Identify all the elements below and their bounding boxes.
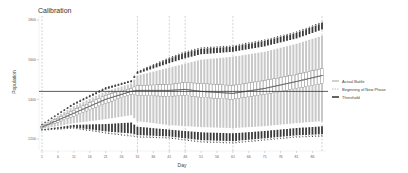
day-boxplot (177, 54, 180, 140)
x-tick-label: 81 (295, 155, 299, 159)
x-tick-label: 26 (120, 155, 124, 159)
day-boxplot (276, 36, 279, 139)
x-tick-label: 31 (135, 155, 139, 159)
day-boxplot (165, 59, 168, 139)
day-boxplot (85, 96, 88, 130)
day-boxplot (206, 47, 209, 143)
x-axis: 1611162126313641465156616671768186 (40, 151, 326, 159)
day-boxplot (225, 46, 228, 144)
day-boxplot (193, 49, 196, 142)
day-boxplot (241, 43, 244, 142)
day-boxplot (238, 44, 241, 143)
x-tick-label: 66 (247, 155, 251, 159)
y-axis-label: Population (11, 70, 17, 94)
x-tick-label: 1 (41, 155, 43, 159)
day-boxplot (95, 92, 98, 132)
y-axis: 1200140016001800 (28, 16, 39, 150)
day-boxplot (187, 50, 190, 141)
day-boxplot (302, 29, 305, 137)
x-axis-label: Day (178, 162, 187, 168)
y-tick-label: 1400 (28, 98, 36, 102)
x-tick-label: 41 (167, 155, 171, 159)
day-boxplot (98, 90, 101, 133)
day-boxplot (267, 38, 270, 140)
day-boxplot (244, 43, 247, 142)
day-boxplot (63, 109, 66, 129)
x-tick-label: 51 (199, 155, 203, 159)
day-boxplot (111, 85, 114, 134)
day-boxplot (139, 70, 142, 138)
x-tick-label: 61 (231, 155, 235, 159)
day-boxplot (219, 46, 222, 143)
legend-actual-battle-label: Actual Battle (342, 79, 365, 84)
day-boxplot (60, 111, 63, 129)
x-tick-label: 21 (104, 155, 108, 159)
x-tick-label: 86 (310, 155, 314, 159)
day-boxplot (321, 21, 324, 136)
day-boxplot (247, 42, 250, 142)
day-boxplot (101, 88, 104, 133)
day-boxplot (308, 26, 311, 137)
day-boxplot (216, 46, 219, 143)
day-boxplot (88, 95, 91, 131)
y-tick-label: 1600 (28, 58, 36, 62)
boxplot-chart: Calibration 1200140016001800 16111621263… (0, 0, 408, 173)
day-boxplot (72, 103, 75, 129)
day-boxplot (209, 47, 212, 143)
day-boxplot (57, 113, 60, 129)
day-boxplot (171, 56, 174, 139)
y-tick-label: 1800 (28, 18, 36, 22)
day-boxplot (53, 115, 56, 130)
day-boxplot (136, 71, 139, 138)
day-boxplot (130, 80, 133, 137)
day-boxplot (212, 46, 215, 142)
day-boxplot (257, 40, 260, 141)
day-boxplot (200, 47, 203, 142)
day-boxplot (317, 23, 320, 137)
day-boxplot (152, 64, 155, 138)
day-boxplot (203, 47, 206, 143)
day-boxplot (104, 87, 107, 134)
box-series (41, 21, 324, 143)
day-boxplot (114, 84, 117, 134)
legend: Actual Battle Beginning of New Phase Thr… (332, 79, 387, 100)
x-tick-label: 36 (151, 155, 155, 159)
day-boxplot (181, 52, 184, 140)
day-boxplot (279, 35, 282, 139)
day-boxplot (76, 101, 79, 129)
x-tick-label: 71 (263, 155, 267, 159)
x-tick-label: 6 (57, 155, 59, 159)
y-tick-label: 1200 (28, 137, 36, 141)
day-boxplot (235, 45, 238, 144)
day-boxplot (263, 39, 266, 140)
x-tick-label: 56 (215, 155, 219, 159)
chart-title: Calibration (38, 7, 72, 14)
x-tick-label: 76 (279, 155, 283, 159)
day-boxplot (146, 67, 149, 138)
day-boxplot (295, 31, 298, 137)
day-boxplot (286, 34, 289, 139)
day-boxplot (282, 35, 285, 139)
legend-new-phase-label: Beginning of New Phase (342, 87, 387, 92)
day-boxplot (123, 82, 126, 136)
day-boxplot (142, 68, 145, 138)
day-boxplot (82, 98, 85, 130)
day-boxplot (120, 83, 123, 136)
day-boxplot (197, 48, 200, 142)
day-boxplot (305, 28, 308, 138)
day-boxplot (222, 46, 225, 143)
legend-threshold-label: Threshold (342, 95, 360, 100)
day-boxplot (314, 24, 317, 137)
day-boxplot (292, 32, 295, 138)
day-boxplot (92, 93, 95, 131)
day-boxplot (149, 65, 152, 138)
day-boxplot (270, 38, 273, 140)
day-boxplot (228, 45, 231, 143)
day-boxplot (79, 100, 82, 130)
day-boxplot (69, 105, 72, 129)
day-boxplot (107, 86, 110, 134)
x-tick-label: 46 (183, 155, 187, 159)
day-boxplot (190, 50, 193, 142)
day-boxplot (155, 63, 158, 138)
day-boxplot (184, 51, 187, 140)
